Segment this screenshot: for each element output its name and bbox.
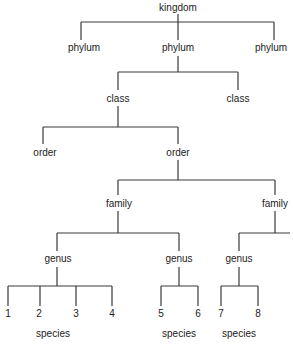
tree-connectors (0, 0, 293, 346)
node-species-4: 4 (109, 309, 115, 319)
node-species-3: 3 (73, 309, 79, 319)
node-species-8: 8 (255, 309, 261, 319)
node-species-6: 6 (195, 309, 201, 319)
node-family-right: family (262, 199, 288, 209)
node-family-left: family (106, 199, 132, 209)
node-phylum-middle: phylum (162, 43, 194, 53)
node-species-5: 5 (158, 309, 164, 319)
node-species-7: 7 (218, 309, 224, 319)
node-order-left: order (33, 148, 56, 158)
species-group-label-1: species (36, 329, 70, 339)
taxonomy-tree-diagram: kingdom phylum phylum phylum class class… (0, 0, 293, 346)
species-group-label-3: species (222, 329, 256, 339)
node-species-2: 2 (36, 309, 42, 319)
species-group-label-2: species (162, 329, 196, 339)
node-phylum-left: phylum (68, 43, 100, 53)
node-class-right: class (227, 94, 250, 104)
node-kingdom: kingdom (159, 3, 197, 13)
node-genus-2: genus (165, 254, 192, 264)
node-phylum-right: phylum (255, 43, 287, 53)
node-class-left: class (107, 94, 130, 104)
node-genus-3: genus (225, 254, 252, 264)
node-order-right: order (166, 148, 189, 158)
node-species-1: 1 (5, 309, 11, 319)
node-genus-1: genus (44, 254, 71, 264)
